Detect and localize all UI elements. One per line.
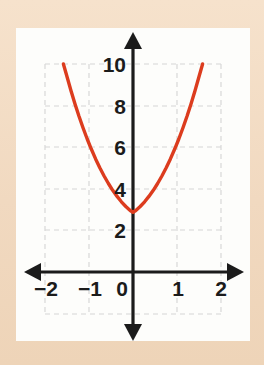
y-tick-6: 6 — [114, 136, 126, 159]
y-tick-4: 4 — [114, 178, 126, 201]
figure-frame: 10 8 6 4 2 −2 −1 0 1 2 — [0, 0, 264, 365]
y-tick-10: 10 — [103, 53, 126, 76]
x-tick--2: −2 — [34, 277, 58, 300]
y-axis-arrow-down — [124, 324, 142, 341]
parabola-chart: 10 8 6 4 2 −2 −1 0 1 2 — [0, 0, 264, 365]
x-tick-2: 2 — [215, 277, 227, 300]
x-tick-1: 1 — [172, 277, 184, 300]
x-axis-arrow-right — [227, 263, 244, 281]
x-tick-0: 0 — [116, 277, 128, 300]
y-tick-8: 8 — [114, 95, 126, 118]
x-tick--1: −1 — [78, 277, 102, 300]
y-tick-labels: 10 8 6 4 2 — [103, 53, 127, 242]
y-axis-arrow-up — [124, 32, 142, 49]
x-tick-labels: −2 −1 0 1 2 — [34, 277, 227, 300]
y-tick-2: 2 — [114, 219, 126, 242]
